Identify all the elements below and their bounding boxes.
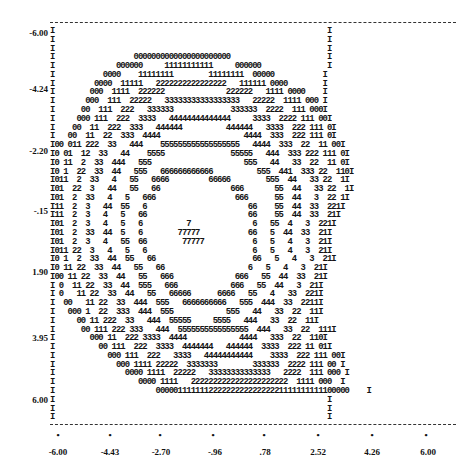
plot-bottom-border (50, 424, 456, 425)
x-tick-mark: • (424, 430, 427, 440)
x-tick-label: -.96 (208, 447, 222, 456)
x-tick-mark: • (56, 430, 59, 440)
plot-top-border (50, 22, 456, 23)
y-tick-label: -.15 (0, 207, 48, 216)
x-tick-label: -4.43 (101, 447, 120, 456)
x-tick-mark: • (211, 430, 214, 440)
x-tick-label: -6.00 (49, 447, 68, 456)
y-tick-label: 6.00 (0, 396, 48, 405)
contour-grid: I I I I I I I (50, 27, 371, 422)
x-tick-label: 2.52 (310, 447, 326, 456)
x-tick-label: .78 (259, 447, 270, 456)
x-tick-mark: • (108, 430, 111, 440)
x-tick-mark: • (158, 430, 161, 440)
y-tick-label: 1.90 (0, 268, 48, 277)
y-tick-label: 3.95 (0, 334, 48, 343)
x-tick-mark: • (262, 430, 265, 440)
x-tick-label: -2.70 (152, 447, 171, 456)
x-tick-label: 6.00 (420, 447, 436, 456)
x-tick-mark: • (316, 430, 319, 440)
x-tick-label: 4.26 (364, 447, 380, 456)
y-tick-label: -2.20 (0, 147, 48, 156)
y-tick-label: -4.24 (0, 85, 48, 94)
x-tick-mark: • (370, 430, 373, 440)
y-tick-label: -6.00 (0, 29, 48, 38)
